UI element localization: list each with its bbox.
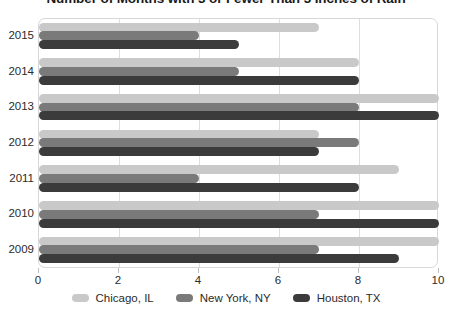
bar-group-2012 <box>39 126 437 162</box>
gridline-x-10 <box>439 19 440 267</box>
bar-new york-2011 <box>39 174 199 183</box>
bar-houston-2012 <box>39 147 319 156</box>
bar-chicago-2009 <box>39 237 439 246</box>
bar-chicago-2013 <box>39 94 439 103</box>
legend-item-houston[interactable]: Houston, TX <box>293 292 381 304</box>
x-axis-label-4: 4 <box>195 274 201 286</box>
bar-new york-2009 <box>39 245 319 254</box>
bar-new york-2015 <box>39 31 199 40</box>
x-axis-label-8: 8 <box>355 274 361 286</box>
x-axis-label-6: 6 <box>275 274 281 286</box>
bar-chicago-2011 <box>39 165 399 174</box>
legend: Chicago, ILNew York, NYHouston, TX <box>0 292 452 304</box>
legend-label: New York, NY <box>200 292 271 304</box>
legend-swatch-icon <box>72 294 89 302</box>
y-axis-labels: 2015201420132012201120102009 <box>0 18 34 268</box>
bar-chicago-2015 <box>39 23 319 32</box>
x-tick-6 <box>278 268 279 273</box>
bar-rows <box>39 19 437 267</box>
bar-chart: Number of Months with 3 or Fewer Than 3 … <box>0 0 452 319</box>
bar-group-2013 <box>39 90 437 126</box>
bar-chicago-2012 <box>39 130 319 139</box>
legend-item-new york[interactable]: New York, NY <box>176 292 271 304</box>
x-tick-10 <box>438 268 439 273</box>
bar-new york-2012 <box>39 138 359 147</box>
legend-swatch-icon <box>176 294 193 302</box>
bar-group-2015 <box>39 19 437 55</box>
bar-group-2010 <box>39 198 437 234</box>
chart-title: Number of Months with 3 or Fewer Than 3 … <box>0 0 452 6</box>
legend-label: Houston, TX <box>317 292 381 304</box>
y-axis-label-2012: 2012 <box>0 136 34 148</box>
bar-new york-2014 <box>39 67 239 76</box>
y-axis-label-2014: 2014 <box>0 65 34 77</box>
bar-new york-2010 <box>39 210 319 219</box>
x-tick-0 <box>38 268 39 273</box>
bar-chicago-2014 <box>39 58 359 67</box>
y-axis-label-2015: 2015 <box>0 29 34 41</box>
x-axis-label-10: 10 <box>432 274 445 286</box>
x-axis: 0246810 <box>38 268 438 290</box>
y-axis-label-2010: 2010 <box>0 207 34 219</box>
x-axis-label-0: 0 <box>35 274 41 286</box>
bar-houston-2015 <box>39 40 239 49</box>
plot-area <box>38 18 438 268</box>
x-axis-label-2: 2 <box>115 274 121 286</box>
legend-item-chicago[interactable]: Chicago, IL <box>72 292 154 304</box>
legend-swatch-icon <box>293 294 310 302</box>
bar-group-2014 <box>39 55 437 91</box>
bar-houston-2013 <box>39 111 439 120</box>
bar-new york-2013 <box>39 103 359 112</box>
x-tick-8 <box>358 268 359 273</box>
bar-chicago-2010 <box>39 201 439 210</box>
x-tick-4 <box>198 268 199 273</box>
bar-group-2009 <box>39 233 437 269</box>
x-tick-2 <box>118 268 119 273</box>
bar-houston-2010 <box>39 219 439 228</box>
y-axis-label-2009: 2009 <box>0 243 34 255</box>
bar-houston-2011 <box>39 183 359 192</box>
y-axis-label-2013: 2013 <box>0 100 34 112</box>
bar-group-2011 <box>39 162 437 198</box>
legend-label: Chicago, IL <box>96 292 154 304</box>
bar-houston-2009 <box>39 254 399 263</box>
bar-houston-2014 <box>39 76 359 85</box>
y-axis-label-2011: 2011 <box>0 172 34 184</box>
